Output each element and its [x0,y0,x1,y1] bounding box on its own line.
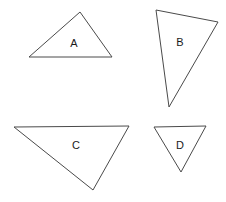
triangle-group-c: C [14,126,129,190]
triangle-label-b: B [176,36,183,48]
triangle-c[interactable] [14,126,129,190]
triangle-group-a: A [29,12,112,57]
triangle-a[interactable] [29,12,112,57]
triangle-label-a: A [70,37,78,49]
triangle-group-d: D [154,126,206,172]
triangle-label-c: C [72,139,80,151]
triangles-figure: A B C D [0,0,226,202]
triangle-b[interactable] [156,10,218,107]
figure-canvas: A B C D [0,0,226,202]
triangle-group-b: B [156,10,218,107]
triangle-label-d: D [176,139,184,151]
